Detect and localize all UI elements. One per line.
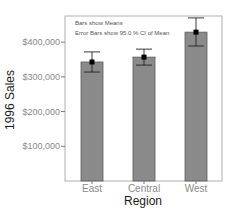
x-axis-labels: EastCentralWest (82, 181, 208, 194)
y-axis-ticks: $100,000$200,000$300,000$400,000 (22, 37, 65, 151)
y-tick-label: $400,000 (22, 37, 60, 47)
y-axis-title: 1996 Sales (3, 70, 17, 130)
bar-chart: Bars show Means Error Bars show 95.0 % C… (0, 0, 237, 215)
x-tick-label-west: West (185, 183, 208, 194)
mean-marker-central (142, 55, 147, 60)
mean-marker-west (194, 30, 199, 35)
x-axis-title: Region (124, 194, 162, 208)
y-tick-label: $300,000 (22, 72, 60, 82)
y-tick-label: $200,000 (22, 107, 60, 117)
x-tick-label-central: Central (128, 183, 160, 194)
bar-east (81, 62, 103, 181)
annotation-bars-show-means: Bars show Means (75, 20, 123, 26)
bar-west (185, 32, 207, 181)
x-tick-label-east: East (82, 183, 102, 194)
annotation-error-bars: Error Bars show 95.0 % CI of Mean (75, 30, 169, 36)
mean-marker-east (90, 59, 95, 64)
bar-central (133, 57, 155, 181)
y-tick-label: $100,000 (22, 141, 60, 151)
